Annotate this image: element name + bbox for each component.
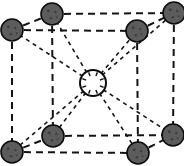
cube-edge-back-bottom — [53, 135, 173, 136]
corner-atom-texture-back-bottom-right-0 — [168, 130, 171, 133]
corner-atom-back-top-left — [41, 3, 63, 25]
corner-atom-texture-front-top-left-3 — [16, 32, 18, 34]
lattice-diagram — [0, 0, 184, 166]
cube-edge-front-top — [12, 30, 137, 31]
corner-atom-front-top-right — [126, 20, 148, 42]
corner-atom-front-top-left — [1, 19, 23, 41]
corner-atom-front-bottom-left — [1, 141, 23, 163]
corner-atom-back-top-right — [163, 2, 184, 24]
corner-atom-texture-front-bottom-left-1 — [14, 149, 16, 151]
bcc-unit-cell-figure — [0, 0, 184, 166]
cube-edge-back-right — [173, 13, 174, 135]
corner-atom-texture-back-bottom-right-1 — [175, 132, 177, 134]
corner-atom-texture-front-top-left-1 — [14, 27, 16, 29]
corner-atom-texture-front-bottom-right-1 — [140, 150, 142, 152]
center-bond-front-top-left — [12, 30, 83, 76]
corner-atom-texture-back-top-right-1 — [176, 10, 178, 12]
corner-atom-texture-back-top-left-1 — [54, 11, 56, 13]
center-atom-body-center — [80, 70, 106, 96]
center-atom-group — [80, 70, 106, 96]
corner-atom-back-bottom-left — [42, 125, 64, 147]
corner-atom-texture-back-bottom-left-3 — [57, 138, 59, 140]
corner-atom-front-bottom-right — [127, 142, 149, 164]
corner-atom-texture-back-top-left-3 — [56, 16, 58, 18]
corner-atom-texture-front-bottom-left-3 — [16, 154, 18, 156]
corner-atom-texture-back-top-left-2 — [50, 17, 53, 20]
corner-atom-texture-front-bottom-right-2 — [136, 156, 139, 159]
corner-atom-back-bottom-right — [162, 124, 184, 146]
corner-atom-texture-front-top-right-1 — [139, 28, 141, 30]
corner-atom-texture-front-bottom-right-3 — [142, 155, 144, 157]
corner-atom-texture-front-bottom-right-0 — [133, 148, 136, 151]
corner-atom-texture-back-bottom-right-3 — [177, 137, 179, 139]
cube-edge-back-top — [52, 13, 174, 14]
cube-edge-front-bottom — [12, 152, 138, 153]
corner-atom-texture-back-bottom-left-2 — [51, 139, 54, 142]
corner-atom-texture-back-top-left-0 — [47, 9, 50, 12]
corner-atom-texture-front-bottom-left-0 — [7, 147, 10, 150]
corner-atom-texture-front-top-right-3 — [141, 33, 143, 35]
corner-atom-texture-back-bottom-right-2 — [171, 138, 174, 141]
corner-atom-texture-front-top-right-0 — [132, 26, 135, 29]
corner-atom-texture-back-top-right-2 — [172, 16, 175, 19]
corner-atom-texture-front-top-left-2 — [10, 33, 13, 36]
corner-atom-texture-back-top-right-0 — [169, 8, 172, 11]
corner-atom-texture-back-bottom-left-0 — [48, 131, 51, 134]
corner-atom-texture-back-top-right-3 — [178, 15, 180, 17]
corner-atom-texture-front-top-left-0 — [7, 25, 10, 28]
corner-atom-texture-back-bottom-left-1 — [55, 133, 57, 135]
corner-atom-texture-front-bottom-left-2 — [10, 155, 13, 158]
corner-atom-texture-front-top-right-2 — [135, 34, 138, 37]
